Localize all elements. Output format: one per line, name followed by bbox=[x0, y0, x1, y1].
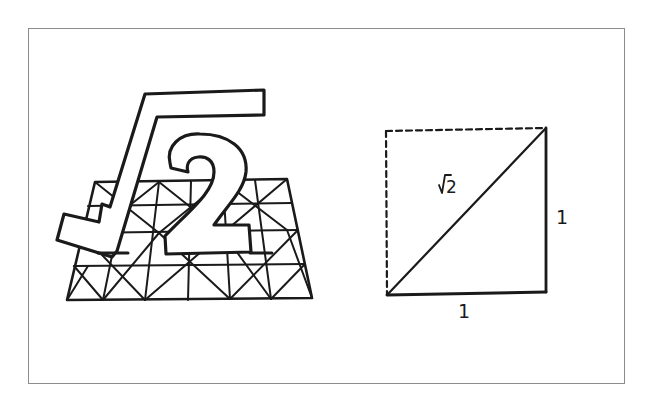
dashed-top-edge bbox=[386, 128, 546, 131]
side-label-bottom: 1 bbox=[458, 300, 470, 322]
diagonal-edge bbox=[387, 128, 546, 295]
bottom-edge bbox=[387, 292, 546, 295]
dashed-left-edge bbox=[386, 131, 387, 294]
side-label-right: 1 bbox=[556, 206, 568, 228]
diagonal-label-number: 2 bbox=[446, 177, 457, 197]
unit-square-diagram: 2 1 1 bbox=[386, 128, 568, 322]
sqrt-two-illustration: 2 1 1 bbox=[0, 0, 654, 415]
diagonal-label: 2 bbox=[439, 175, 457, 197]
